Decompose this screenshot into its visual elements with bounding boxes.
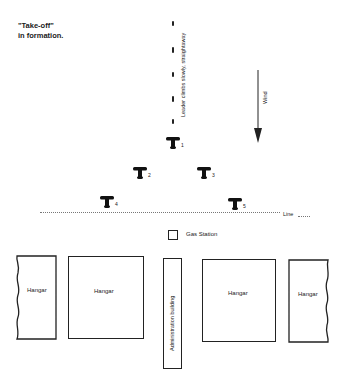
hangar-3 [202, 259, 276, 342]
plane-number: 1 [181, 142, 184, 148]
gas-station-icon [168, 230, 178, 240]
hangar-2 [68, 256, 144, 339]
trail-dash-icon [172, 47, 174, 53]
takeoff-line-tail [298, 216, 310, 217]
wind-label: Wind [262, 91, 268, 104]
hangar-4 [288, 259, 332, 345]
plane-number: 2 [148, 172, 151, 178]
hangar-1 [14, 255, 58, 341]
trail-plane-mark-icon [172, 119, 174, 124]
airplane-icon [99, 195, 115, 209]
plane-number: 4 [115, 201, 118, 207]
airplane-icon [227, 197, 243, 211]
trail-plane-mark-icon [172, 21, 174, 26]
trail-dash-icon [172, 96, 174, 102]
hangar-1-label: Hangar [27, 287, 47, 293]
trail-plane-mark-icon [172, 72, 174, 77]
airplane-icon [196, 166, 212, 180]
takeoff-line-label: Line [283, 211, 293, 217]
takeoff-line [40, 212, 280, 213]
hangar-2-label: Hangar [94, 288, 114, 294]
arrow-down-icon [252, 70, 264, 146]
gas-station-label: Gas Station [186, 231, 217, 237]
plane-number: 3 [212, 172, 215, 178]
hangar-4-label: Hangar [298, 291, 318, 297]
title-line-1: "Take-off" [18, 21, 63, 31]
plane-number: 5 [243, 203, 246, 209]
administration-building-label: Administration building [169, 296, 175, 351]
diagram-title: "Take-off" in formation. [18, 21, 63, 41]
title-line-2: in formation. [18, 31, 63, 41]
airplane-icon [132, 166, 148, 180]
airplane-icon [165, 136, 181, 150]
hangar-3-label: Hangar [228, 290, 248, 296]
leader-note: Leader climbs slowly, straightaway [180, 33, 186, 117]
